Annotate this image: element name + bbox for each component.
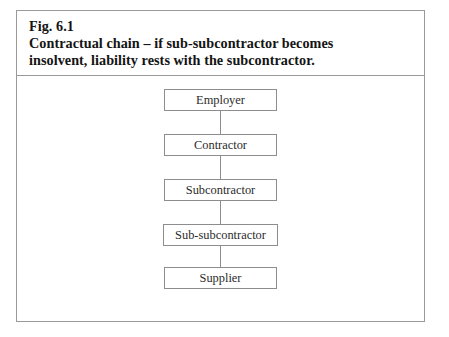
chain-node-subcontractor: Subcontractor <box>164 179 277 201</box>
chain-node-sub-subcontractor: Sub-subcontractor <box>163 224 278 246</box>
connector-sub-subcontractor-supplier <box>220 246 221 267</box>
connector-subcontractor-sub-subcontractor <box>220 201 221 224</box>
contractual-chain: Employer Contractor Subcontractor Sub-su… <box>17 89 424 289</box>
figure-caption-line-1: Contractual chain – if sub-subcontractor… <box>29 35 413 52</box>
node-box-supplier: Supplier <box>164 267 277 289</box>
node-box-employer: Employer <box>164 89 277 111</box>
diagram-area: Employer Contractor Subcontractor Sub-su… <box>17 76 424 321</box>
chain-node-contractor: Contractor <box>164 134 277 156</box>
chain-node-employer: Employer <box>164 89 277 111</box>
node-box-contractor: Contractor <box>164 134 277 156</box>
figure-frame: Fig. 6.1 Contractual chain – if sub-subc… <box>16 10 425 322</box>
connector-employer-contractor <box>220 111 221 134</box>
connector-contractor-subcontractor <box>220 156 221 179</box>
chain-node-supplier: Supplier <box>164 267 277 289</box>
node-box-sub-subcontractor: Sub-subcontractor <box>163 224 278 246</box>
figure-number: Fig. 6.1 <box>29 18 413 35</box>
node-box-subcontractor: Subcontractor <box>164 179 277 201</box>
figure-caption: Fig. 6.1 Contractual chain – if sub-subc… <box>17 11 424 76</box>
figure-caption-line-2: insolvent, liability rests with the subc… <box>29 52 413 69</box>
